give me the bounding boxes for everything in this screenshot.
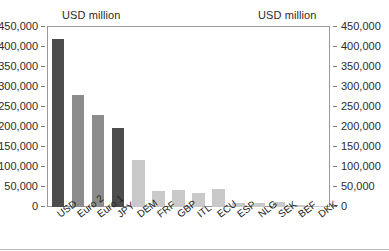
y-axis-left-tick-label: 0 [32, 201, 38, 212]
y-axis-right-tick-mark [333, 166, 337, 167]
y-axis-right-tick-label: 250,000 [341, 101, 381, 112]
clipped-title-sliver [95, 0, 325, 3]
bar-slot [172, 27, 184, 207]
y-axis-left-tick-mark [41, 186, 45, 187]
bar-slot [232, 27, 244, 207]
y-axis-left-tick-label: 350,000 [0, 61, 38, 72]
y-axis-left-tick-label: 450,000 [0, 21, 38, 32]
bar-slot [92, 27, 104, 207]
bar-slot [253, 27, 265, 207]
y-axis-left-tick-mark [41, 46, 45, 47]
y-axis-right-tick-mark [333, 46, 337, 47]
bar-usd [52, 39, 64, 207]
y-axis-right-tick-mark [333, 146, 337, 147]
y-axis-left-tick-label: 50,000 [4, 181, 38, 192]
y-axis-right-tick-label: 350,000 [341, 61, 381, 72]
bar-slot [112, 27, 124, 207]
bar-dem [132, 160, 144, 207]
y-axis-left-tick-label: 150,000 [0, 141, 38, 152]
y-axis-left: 450,000400,000350,000300,000250,000200,0… [0, 26, 45, 207]
y-axis-left-tick-mark [41, 206, 45, 207]
bar-slot [293, 27, 305, 207]
y-axis-right-tick-label: 400,000 [341, 41, 381, 52]
y-axis-right-tick-mark [333, 106, 337, 107]
unit-caption-left: USD million [62, 9, 121, 21]
bar-slot [313, 27, 325, 207]
y-axis-right-tick-mark [333, 126, 337, 127]
bar-chart-figure: USD million USD million 450,000400,00035… [0, 0, 389, 251]
bars-layer [48, 27, 329, 207]
bar-slot [72, 27, 84, 207]
bar-slot [132, 27, 144, 207]
bar-slot [273, 27, 285, 207]
y-axis-left-tick-mark [41, 86, 45, 87]
y-axis-left-tick-label: 300,000 [0, 81, 38, 92]
y-axis-left-tick-label: 200,000 [0, 121, 38, 132]
y-axis-right-tick-label: 100,000 [341, 161, 381, 172]
y-axis-left-tick-mark [41, 66, 45, 67]
y-axis-right-tick-mark [333, 186, 337, 187]
bar-slot [192, 27, 204, 207]
y-axis-left-tick-mark [41, 106, 45, 107]
y-axis-right-tick-label: 0 [341, 201, 347, 212]
y-axis-right: 450,000400,000350,000300,000250,000200,0… [332, 26, 377, 207]
y-axis-left-tick-mark [41, 146, 45, 147]
bottom-divider [0, 249, 389, 250]
y-axis-right-tick-label: 200,000 [341, 121, 381, 132]
bar-slot [212, 27, 224, 207]
y-axis-left-tick-label: 400,000 [0, 41, 38, 52]
y-axis-right-tick-label: 450,000 [341, 21, 381, 32]
y-axis-right-tick-label: 150,000 [341, 141, 381, 152]
y-axis-right-tick-mark [333, 26, 337, 27]
unit-caption-right: USD million [258, 9, 317, 21]
y-axis-right-tick-label: 50,000 [341, 181, 375, 192]
x-axis-category-labels: USDEuro 2Euro 1JPYDEMFRFGBPITLECUESPNLGS… [48, 208, 329, 251]
y-axis-left-tick-mark [41, 26, 45, 27]
bar-slot [52, 27, 64, 207]
bar-slot [152, 27, 164, 207]
y-axis-right-tick-label: 300,000 [341, 81, 381, 92]
y-axis-left-tick-label: 100,000 [0, 161, 38, 172]
y-axis-left-tick-mark [41, 166, 45, 167]
y-axis-right-tick-mark [333, 66, 337, 67]
y-axis-left-tick-label: 250,000 [0, 101, 38, 112]
bar-euro-2 [72, 95, 84, 207]
y-axis-left-tick-mark [41, 126, 45, 127]
y-axis-right-tick-mark [333, 86, 337, 87]
